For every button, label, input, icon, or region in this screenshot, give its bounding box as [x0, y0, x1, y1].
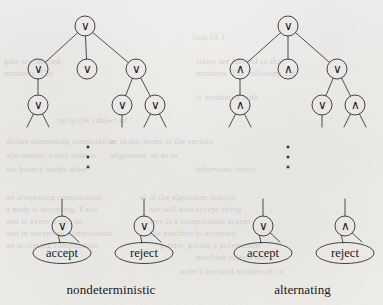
tree-node-symbol-or: ∨	[118, 99, 127, 111]
tree-edge-stub	[359, 114, 366, 127]
tree-edge-stub	[244, 114, 251, 127]
tree-node-symbol-and: ∧	[236, 63, 245, 75]
tree-edge	[247, 33, 280, 63]
tree-node-symbol-or: ∨	[151, 99, 160, 111]
tree-edge	[140, 235, 142, 243]
tree-edge-stub	[144, 114, 151, 127]
tree-edge-stub	[352, 233, 362, 242]
tree-alternating: acceptreject∨∧∧∨∧∨∧∨∧	[229, 16, 374, 264]
tree-node-symbol-or: ∨	[318, 99, 327, 111]
tree-edge	[259, 235, 261, 243]
tree-node-symbol-or: ∨	[34, 99, 43, 111]
vertical-ellipsis-dot	[87, 166, 90, 169]
tree-node-symbol-and: ∧	[351, 99, 360, 111]
vertical-ellipsis-dot	[287, 156, 290, 159]
tree-node-symbol-and: ∧	[341, 220, 350, 232]
tree-node-symbol-or: ∨	[140, 220, 149, 232]
leaf-outcome-label: reject	[130, 246, 158, 260]
tree-edge	[141, 78, 151, 96]
computation-tree-figure: acceptreject∨∨∨∨∨∨∨∨∨acceptreject∨∧∧∨∧∨∧…	[0, 0, 383, 305]
caption-alternating: alternating	[222, 282, 383, 298]
tree-edge-stub	[159, 114, 166, 127]
tree-edge	[326, 78, 333, 96]
tree-node-symbol-or: ∨	[333, 63, 342, 75]
tree-node-symbol-or: ∨	[83, 63, 92, 75]
vertical-ellipsis-dot	[87, 156, 90, 159]
vertical-ellipsis-dot	[287, 146, 290, 149]
tree-node-symbol-and: ∧	[284, 63, 293, 75]
tree-edge-stub	[27, 114, 34, 127]
tree-edge-stub	[344, 114, 351, 127]
leaf-outcome-label: reject	[331, 246, 359, 260]
leaf-outcome-label: accept	[247, 246, 279, 260]
tree-edge-stub	[229, 114, 236, 127]
tree-edge	[45, 33, 77, 63]
tree-edge	[93, 32, 129, 62]
tree-edge	[58, 235, 60, 243]
tree-node-symbol-or: ∨	[81, 20, 90, 32]
tree-node-symbol-and: ∧	[236, 99, 245, 111]
tree-node-symbol-or: ∨	[34, 63, 43, 75]
vertical-ellipsis-dot	[87, 146, 90, 149]
leaf-outcome-label: accept	[46, 246, 78, 260]
tree-edge-stub	[69, 233, 79, 242]
tree-node-symbol-or: ∨	[259, 220, 268, 232]
tree-edge	[85, 36, 86, 59]
tree-node-symbol-or: ∨	[58, 220, 67, 232]
tree-edge	[341, 78, 350, 96]
tree-node-symbol-or: ∨	[284, 20, 293, 32]
tree-edge	[341, 235, 343, 243]
vertical-ellipsis-dot	[287, 166, 290, 169]
tree-edge-stub	[151, 233, 161, 242]
tree-node-symbol-or: ∨	[132, 63, 141, 75]
caption-nondeterministic: nondeterministic	[0, 282, 222, 298]
tree-edge-stub	[42, 114, 49, 127]
tree-edge-stub	[270, 233, 280, 242]
tree-nondeterministic: acceptreject∨∨∨∨∨∨∨∨∨	[27, 16, 173, 264]
tree-edge	[296, 33, 330, 63]
tree-edge	[126, 78, 133, 95]
